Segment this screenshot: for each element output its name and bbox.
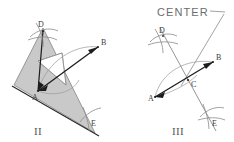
point-label-e-three: E <box>212 119 217 128</box>
point-label-d-two: D <box>38 20 44 29</box>
point-dot-c-three <box>187 79 189 81</box>
point-label-b-two: B <box>101 38 106 47</box>
point-label-a-three: A <box>148 94 154 103</box>
diagram-canvas: A B D E II <box>0 0 234 142</box>
figure-numeral-two: II <box>34 125 42 137</box>
point-dot-a-three <box>154 96 156 98</box>
figure-numeral-three: III <box>172 125 184 137</box>
construction-diagram: A B D E II <box>0 0 234 142</box>
point-dot-d-two <box>42 30 44 32</box>
point-dot-a-two <box>37 90 39 92</box>
point-label-c-three: C <box>191 80 196 89</box>
point-label-e-two: E <box>91 119 96 128</box>
point-label-d-three: D <box>159 26 165 35</box>
point-dot-b-three <box>212 61 214 63</box>
point-label-a-two: A <box>32 93 38 102</box>
point-dot-d-three <box>162 35 164 37</box>
point-dot-b-two <box>97 46 99 48</box>
center-callout-label: CENTER <box>157 6 209 18</box>
point-label-b-three: B <box>216 53 221 62</box>
